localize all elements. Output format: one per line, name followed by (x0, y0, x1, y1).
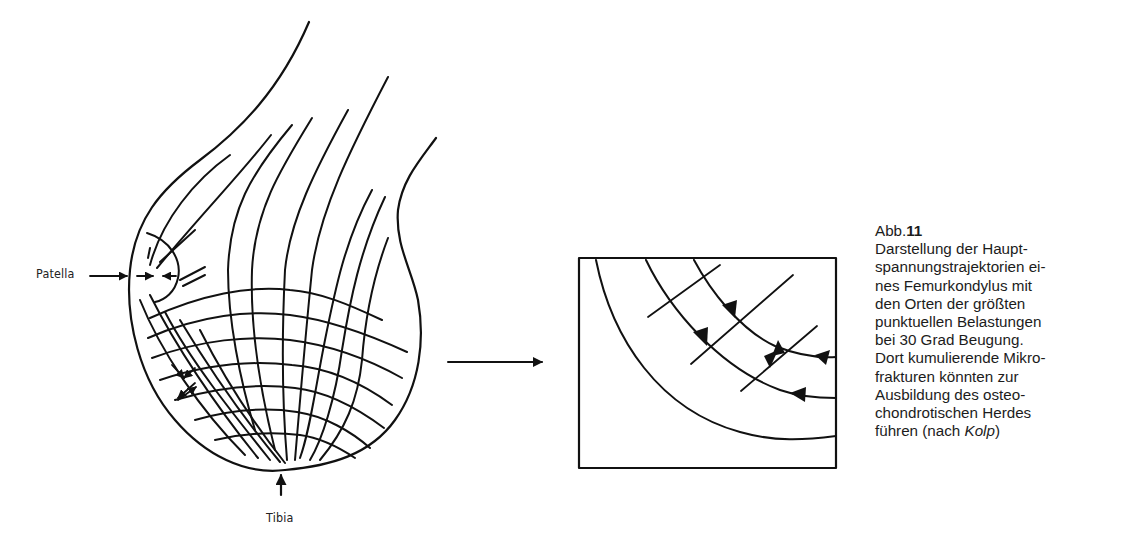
detail-box (579, 258, 836, 468)
patella-label: Patella (36, 266, 75, 281)
caption-line: Darstellung der Haupt- (875, 240, 1120, 258)
detail-load-arrows (693, 300, 830, 402)
patella-region (147, 230, 205, 302)
caption-line: Ausbildung des osteo- (875, 386, 1120, 404)
figure-number-value: 11 (906, 222, 922, 239)
caption-text: führen (nach (875, 422, 965, 439)
caption-text: ) (995, 422, 1000, 439)
caption-line: punktuellen Belastungen (875, 313, 1120, 331)
caption-line: den Orten der größten (875, 295, 1120, 313)
trajectory-lines-longitudinal (150, 77, 388, 460)
tibia-label: Tibia (266, 510, 294, 525)
figure-number: Abb.11 (875, 222, 1120, 240)
caption-line: Dort kumulierende Mikro- (875, 349, 1120, 367)
caption-line: bei 30 Grad Beugung. (875, 331, 1120, 349)
caption-line: frakturen könnten zur (875, 368, 1120, 386)
caption-line: nes Femurkondylus mit (875, 277, 1120, 295)
caption-line: spannungstrajektorien ei- (875, 258, 1120, 276)
caption-line: chondrotischen Herdes (875, 404, 1120, 422)
caption-last-line: führen (nach Kolp) (875, 422, 1120, 440)
figure-caption: Abb.11 Darstellung der Haupt- spannungst… (875, 222, 1120, 440)
caption-author: Kolp (965, 422, 995, 439)
figure-prefix: Abb. (875, 222, 906, 239)
